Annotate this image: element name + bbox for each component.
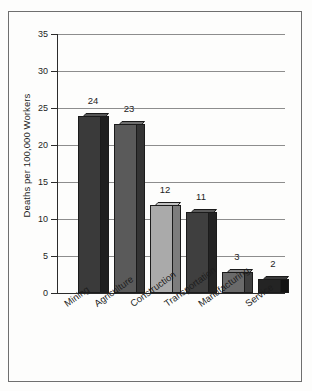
chart-screenshot: 35 30 25 20 15 10 5 0 Deaths per 100,000…: [0, 0, 312, 391]
y-tick-label-0: 0: [18, 289, 48, 298]
y-tick-35: [51, 34, 58, 35]
gridline-35: [58, 34, 285, 35]
bar-value-manufacturing: 3: [220, 251, 254, 262]
x-tick-label-mining: Mining: [62, 284, 91, 309]
y-tick-label-35: 35: [18, 30, 48, 39]
bar-side-face-service: [281, 279, 289, 293]
y-axis-label: Deaths per 100,000 Workers: [21, 91, 32, 221]
bar-side-face-transportation: [209, 212, 217, 293]
bar-value-construction: 12: [148, 184, 182, 195]
y-tick-20: [51, 145, 58, 146]
bar-side-face-mining: [101, 116, 109, 293]
plot-area: 35 30 25 20 15 10 5 0 Deaths per 100,000…: [0, 0, 312, 391]
bar-value-transportation: 11: [184, 191, 218, 202]
bar-front-face-agriculture: [114, 124, 137, 293]
y-tick-5: [51, 256, 58, 257]
y-tick-25: [51, 108, 58, 109]
y-tick-15: [51, 182, 58, 183]
y-tick-label-5: 5: [18, 252, 48, 261]
bar-side-face-agriculture: [137, 124, 145, 293]
bar-front-face-mining: [78, 116, 101, 293]
y-tick-10: [51, 219, 58, 220]
y-tick-30: [51, 71, 58, 72]
gridline-30: [58, 71, 285, 72]
bar-value-agriculture: 23: [112, 103, 146, 114]
y-tick-label-30: 30: [18, 67, 48, 76]
bar-value-service: 2: [256, 258, 290, 269]
y-tick-0: [51, 293, 58, 294]
y-axis-line: [57, 34, 58, 294]
bar-value-mining: 24: [76, 95, 110, 106]
